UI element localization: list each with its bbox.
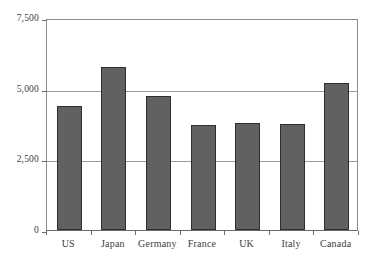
x-axis-tick-label: Canada (320, 238, 351, 249)
x-axis-tick-label: France (188, 238, 216, 249)
y-axis-tick-label: 5,000 (0, 84, 39, 94)
x-axis-tick-label: UK (239, 238, 254, 249)
x-axis-tick-label: Japan (101, 238, 125, 249)
x-axis-tick-mark (269, 231, 270, 235)
bar (324, 83, 349, 230)
x-axis-tick-mark (313, 231, 314, 235)
x-axis-tick-mark (46, 231, 47, 235)
plot-area (46, 19, 358, 231)
x-axis-ticks (46, 231, 359, 236)
bar (57, 106, 82, 230)
x-axis-labels: USJapanGermanyFranceUKItalyCanada (46, 238, 359, 256)
gridline (47, 91, 357, 92)
x-axis-tick-label: US (62, 238, 75, 249)
bar (235, 123, 260, 230)
x-axis-tick-mark (224, 231, 225, 235)
bar (280, 124, 305, 230)
x-axis-tick-mark (180, 231, 181, 235)
x-axis-tick-mark (91, 231, 92, 235)
x-axis-tick-mark (358, 231, 359, 235)
x-axis-tick-label: Italy (281, 238, 300, 249)
bar (191, 125, 216, 230)
y-axis-tick-label: 2,500 (0, 154, 39, 164)
bar (101, 67, 126, 230)
y-axis-tick-mark (42, 91, 47, 92)
bar-chart: 02,5005,0007,500 USJapanGermanyFranceUKI… (0, 0, 375, 264)
y-axis-tick-mark (42, 161, 47, 162)
x-axis-tick-label: Germany (138, 238, 177, 249)
y-axis-tick-label: 7,500 (0, 13, 39, 23)
x-axis-tick-mark (135, 231, 136, 235)
bar (146, 96, 171, 230)
y-axis-tick-label: 0 (0, 225, 39, 235)
y-axis-tick-mark (42, 20, 47, 21)
